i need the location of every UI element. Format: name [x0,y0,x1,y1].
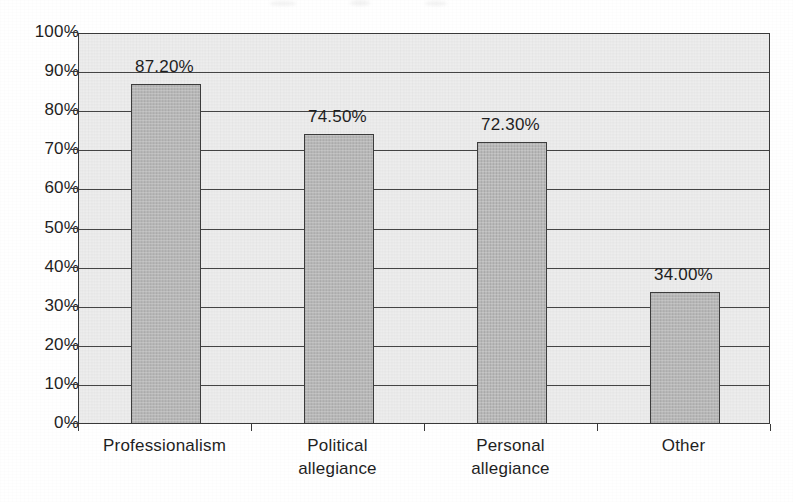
bar [131,84,201,424]
y-axis-tick-label: 60% [13,178,79,198]
y-axis-tick-mark [71,188,78,189]
bar-grain [132,85,200,424]
y-axis-tick-mark [71,71,78,72]
bar-value-label: 74.50% [308,107,367,127]
y-axis-tick-label: 70% [13,139,79,159]
x-axis-category-line: Other [597,434,770,457]
y-axis-tick-mark [71,384,78,385]
y-axis-tick-mark [71,110,78,111]
x-axis-category-line: Personal [424,434,597,457]
bar-grain [305,135,373,424]
x-axis-tick-mark [251,424,252,431]
y-axis-tick-label: 100% [13,22,79,42]
y-axis-tick-mark [71,267,78,268]
bar [304,134,374,424]
bar-value-label: 34.00% [654,265,713,285]
scan-artifact [425,1,447,6]
bar-value-label: 87.20% [135,57,194,77]
x-axis-category-line: Political [251,434,424,457]
bar [650,292,720,424]
y-axis-tick-mark [71,32,78,33]
x-axis-category-line: allegiance [424,457,597,480]
y-axis-tick-mark [71,149,78,150]
bar [477,142,547,424]
y-axis-tick-label: 40% [13,257,79,277]
y-axis-tick-mark [71,228,78,229]
x-axis-tick-mark [770,424,771,431]
scan-artifact [270,1,296,6]
y-axis-tick-label: 80% [13,100,79,120]
y-axis-tick-label: 0% [13,413,79,433]
x-axis-category-label: Professionalism [78,434,251,457]
x-axis-tick-mark [78,424,79,431]
x-axis-category-label: Other [597,434,770,457]
y-axis-tick-label: 50% [13,218,79,238]
x-axis-tick-mark [597,424,598,431]
bar-grain [651,293,719,424]
x-axis-category-line: Professionalism [78,434,251,457]
x-axis-category-label: Politicalallegiance [251,434,424,480]
bar-grain [478,143,546,424]
y-axis-tick-mark [71,423,78,424]
x-axis-category-label: Personalallegiance [424,434,597,480]
scan-artifact [350,0,370,6]
plot-area [78,33,770,424]
y-axis-tick-label: 10% [13,374,79,394]
x-axis-category-line: allegiance [251,457,424,480]
bar-value-label: 72.30% [481,115,540,135]
y-axis-tick-mark [71,306,78,307]
y-axis-tick-mark [71,345,78,346]
bar-chart: 100%90%80%70%60%50%40%30%20%10%0% Profes… [0,0,793,502]
x-axis-tick-mark [424,424,425,431]
y-axis-tick-label: 30% [13,296,79,316]
y-axis-tick-label: 90% [13,61,79,81]
y-axis-tick-label: 20% [13,335,79,355]
